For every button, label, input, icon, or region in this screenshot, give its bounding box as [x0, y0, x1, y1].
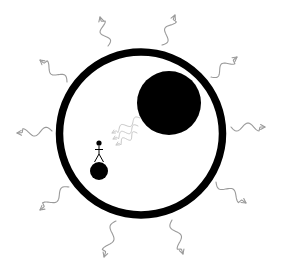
wavy-line [100, 17, 111, 46]
wavy-line [40, 60, 67, 82]
wave-upper-right [211, 57, 237, 78]
stick-figure-leg [99, 154, 104, 162]
wavy-line [170, 220, 183, 254]
wave-top-right [162, 15, 176, 45]
wavy-line [231, 123, 265, 131]
small-black-ball [90, 162, 108, 180]
stick-figure-leg [95, 154, 100, 162]
outer-ring [60, 52, 223, 215]
wave-bottom-left [102, 221, 116, 257]
wave-lower-right [216, 182, 246, 203]
inner-radiation-waves [112, 117, 140, 145]
stick-figure-icon [95, 140, 104, 162]
wavy-line [17, 127, 52, 136]
wavy-line [216, 182, 246, 203]
diagram-svg [0, 0, 286, 275]
wavy-line [162, 15, 176, 45]
wave-right [231, 123, 265, 131]
wave-lower-left [40, 187, 69, 210]
stick-figure-head [96, 140, 101, 145]
wavy-line [40, 187, 69, 210]
wave-bottom-right [170, 220, 184, 254]
diagram-canvas [0, 0, 286, 275]
wavy-line [102, 221, 116, 257]
wave-top-left [99, 17, 111, 46]
large-black-circle [137, 71, 201, 135]
wave-upper-left [40, 60, 67, 82]
wave-left [17, 127, 52, 136]
wavy-line [211, 57, 237, 78]
